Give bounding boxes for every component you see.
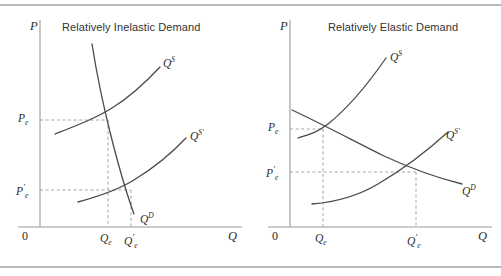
price-tick-pe-prime-sub: e (25, 191, 28, 200)
quantity-tick-qe-sub: e (323, 238, 326, 247)
price-tick-pe-prime: P'e (16, 183, 28, 200)
quantity-tick-qe-prime: Q'e (124, 233, 138, 250)
curve-label-supply-original-sup: S (398, 49, 402, 58)
origin-label: 0 (272, 230, 278, 242)
quantity-tick-qe: Qe (315, 233, 327, 247)
panel-inelastic-demand: Relatively Inelastic Demand P Q 0 Pe P'e… (0, 12, 250, 260)
price-tick-pe-prime-sub: e (275, 173, 278, 182)
bottom-divider-rule (0, 266, 501, 268)
curve-label-demand: QD (140, 212, 154, 225)
curve-label-demand: QD (462, 184, 476, 197)
quantity-tick-qe-prime-sub: e (134, 241, 137, 250)
quantity-tick-qe-prime-sub: e (417, 241, 420, 250)
curve-demand-inelastic (92, 44, 134, 214)
curve-label-supply-original: QS (390, 50, 402, 63)
quantity-tick-qe-prime: Q'e (407, 233, 421, 250)
panel-elastic-demand: Relatively Elastic Demand P Q 0 Pe P'e Q… (250, 12, 500, 260)
panel-inelastic-plot (0, 12, 250, 260)
curve-label-supply-shifted-prime: ' (202, 128, 204, 137)
curve-label-demand-sup: D (148, 211, 153, 220)
price-tick-pe-prime: P'e (266, 165, 278, 182)
curve-label-supply-original-sup: S (171, 55, 175, 64)
curve-label-supply-original: QS (163, 56, 175, 69)
curve-label-demand-sup: D (470, 183, 475, 192)
price-tick-pe-base: P (18, 112, 25, 124)
curve-label-supply-shifted: QS' (446, 128, 460, 141)
panel-title-inelastic: Relatively Inelastic Demand (62, 22, 200, 33)
curve-demand-elastic (292, 110, 462, 184)
curve-label-supply-shifted: QS' (190, 129, 204, 142)
quantity-tick-qe-sub: e (108, 238, 111, 247)
curve-label-supply-shifted-prime: ' (458, 127, 460, 136)
curve-supply-original (298, 58, 386, 138)
x-axis-label: Q (478, 230, 487, 243)
top-divider-rule (0, 4, 501, 6)
economics-figure: Relatively Inelastic Demand P Q 0 Pe P'e… (0, 0, 501, 276)
panel-elastic-plot (250, 12, 500, 260)
curve-supply-shifted (312, 132, 448, 204)
curve-supply-shifted (78, 138, 186, 202)
x-axis-label: Q (228, 230, 237, 243)
price-tick-pe: Pe (268, 122, 278, 136)
quantity-tick-qe: Qe (100, 233, 112, 247)
price-tick-pe-prime-base: P (266, 167, 273, 179)
price-tick-pe-sub: e (25, 118, 28, 127)
price-tick-pe: Pe (18, 113, 28, 127)
price-tick-pe-prime-base: P (16, 185, 23, 197)
origin-label: 0 (22, 230, 28, 242)
y-axis-label: P (30, 20, 38, 33)
y-axis-label: P (280, 20, 288, 33)
panel-title-elastic: Relatively Elastic Demand (328, 22, 458, 33)
price-tick-pe-sub: e (275, 127, 278, 136)
price-tick-pe-base: P (268, 121, 275, 133)
